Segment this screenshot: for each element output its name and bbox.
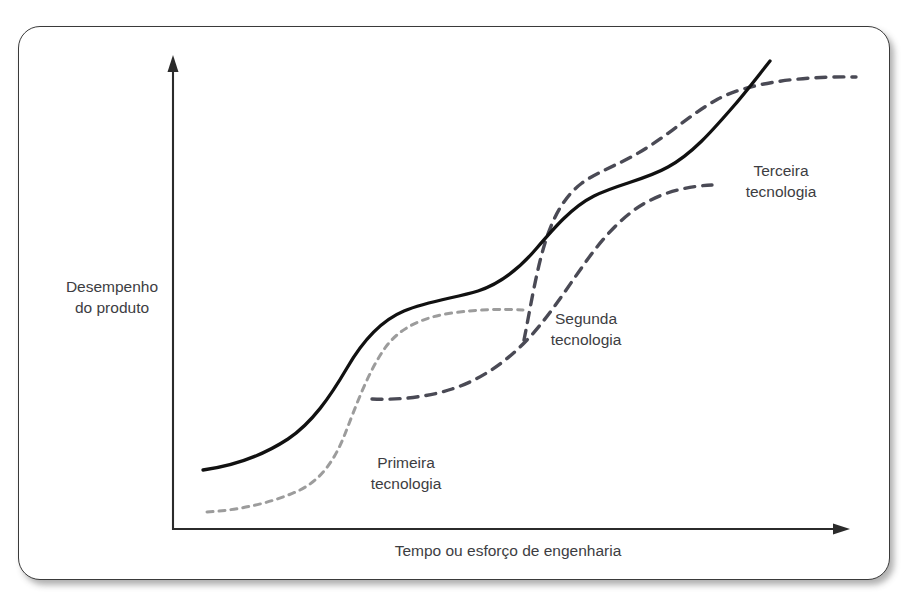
annotation-terceira-line2: tecnologia <box>746 183 817 200</box>
y-axis-label-line1: Desempenho <box>66 278 158 295</box>
x-axis-label: Tempo ou esforço de engenharia <box>395 542 622 559</box>
annotation-primeira-tecnologia: Primeira tecnologia <box>371 454 442 492</box>
annotation-segunda-tecnologia: Segunda tecnologia <box>551 310 622 348</box>
x-axis <box>173 524 850 535</box>
y-axis-arrow-icon <box>168 55 179 72</box>
y-axis-label-line2: do produto <box>75 299 149 316</box>
annotation-terceira-line1: Terceira <box>753 162 809 179</box>
technology-s-curve-chart: Desempenho do produto Tempo ou esforço d… <box>0 0 909 610</box>
annotation-primeira-line1: Primeira <box>377 454 435 471</box>
x-axis-arrow-icon <box>833 524 850 535</box>
annotation-terceira-tecnologia: Terceira tecnologia <box>746 162 817 200</box>
figure-root: Desempenho do produto Tempo ou esforço d… <box>0 0 909 610</box>
y-axis <box>168 55 179 530</box>
annotation-segunda-line2: tecnologia <box>551 331 622 348</box>
annotation-segunda-line1: Segunda <box>555 310 617 327</box>
curve-segunda-tecnologia <box>372 185 712 399</box>
y-axis-label: Desempenho do produto <box>66 278 158 316</box>
annotation-primeira-line2: tecnologia <box>371 475 442 492</box>
